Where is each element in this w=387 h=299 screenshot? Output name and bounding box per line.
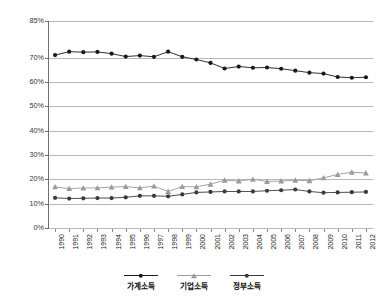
x-axis-tick-label: 1994 <box>115 234 122 250</box>
legend-item-2[interactable]: 기업소득 <box>177 272 211 291</box>
x-axis-tick-label: 2008 <box>312 234 319 250</box>
x-axis-tick-label: 2004 <box>256 234 263 250</box>
line-chart: 0%10%20%30%40%50%60%70%85% 1990199119921… <box>0 0 387 299</box>
x-axis-tick-label: 1995 <box>129 234 136 250</box>
x-tick-mark <box>69 229 70 232</box>
x-axis-tick-label: 1997 <box>157 234 164 250</box>
x-tick-mark <box>97 229 98 232</box>
chart-legend: 가계소득기업소득정부소득 <box>0 272 387 291</box>
x-axis-tick-label: 2003 <box>242 234 249 250</box>
x-tick-mark <box>267 229 268 232</box>
legend-item-1[interactable]: 가계소득 <box>124 272 158 291</box>
legend-label: 가계소득 <box>127 280 155 291</box>
x-tick-mark <box>211 229 212 232</box>
x-tick-mark <box>338 229 339 232</box>
x-axis-tick-label: 1999 <box>185 234 192 250</box>
x-axis-tick-label: 2001 <box>214 234 221 250</box>
x-tick-mark <box>225 229 226 232</box>
x-axis-tick-label: 2005 <box>270 234 277 250</box>
circle-marker-icon <box>244 273 248 277</box>
x-axis-tick-label: 1992 <box>86 234 93 250</box>
x-axis-tick-label: 2007 <box>298 234 305 250</box>
x-axis-tick-label: 1991 <box>72 234 79 250</box>
x-axis-tick-label: 1998 <box>171 234 178 250</box>
x-tick-mark <box>295 229 296 232</box>
x-axis-tick-label: 2012 <box>369 234 376 250</box>
x-tick-mark <box>140 229 141 232</box>
x-axis-tick-label: 2010 <box>341 234 348 250</box>
x-tick-mark <box>126 229 127 232</box>
legend-item-3[interactable]: 정부소득 <box>230 272 264 291</box>
x-axis-tick-label: 2002 <box>228 234 235 250</box>
x-tick-mark <box>253 229 254 232</box>
x-tick-mark <box>182 229 183 232</box>
x-axis-tick-label: 1993 <box>100 234 107 250</box>
x-tick-mark <box>239 229 240 232</box>
x-axis-tick-label: 2009 <box>327 234 334 250</box>
x-tick-mark <box>112 229 113 232</box>
x-axis-tick-label: 2011 <box>355 234 362 249</box>
x-tick-mark <box>309 229 310 232</box>
circle-marker-icon <box>138 273 142 277</box>
x-tick-mark <box>352 229 353 232</box>
x-tick-mark <box>324 229 325 232</box>
x-tick-mark <box>55 229 56 232</box>
legend-swatch <box>124 272 158 279</box>
x-axis-tick-label: 1990 <box>58 234 65 250</box>
x-tick-mark <box>281 229 282 232</box>
x-tick-mark <box>366 229 367 232</box>
legend-label: 정부소득 <box>233 280 261 291</box>
x-axis-tick-label: 1996 <box>143 234 150 250</box>
x-axis-labels: 1990199119921993199419951996199719981999… <box>0 0 387 299</box>
x-tick-mark <box>196 229 197 232</box>
triangle-marker-icon <box>191 273 197 278</box>
x-axis-tick-label: 2000 <box>199 234 206 250</box>
x-tick-mark <box>168 229 169 232</box>
legend-swatch <box>230 272 264 279</box>
x-tick-mark <box>83 229 84 232</box>
x-tick-mark <box>154 229 155 232</box>
legend-swatch <box>177 272 211 279</box>
x-axis-tick-label: 2006 <box>284 234 291 250</box>
legend-label: 기업소득 <box>180 280 208 291</box>
